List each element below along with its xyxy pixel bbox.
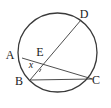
angle-label-x: x [28, 59, 34, 70]
geometry-canvas: A B C D E x [0, 0, 111, 108]
main-circle [18, 13, 97, 92]
vertex-label-d: D [80, 7, 89, 21]
vertex-label-e: E [36, 45, 43, 59]
chord-bc [30, 79, 93, 80]
vertex-label-b: B [15, 74, 23, 88]
vertex-label-a: A [6, 48, 15, 62]
vertex-label-c: C [92, 73, 100, 87]
geometry-figure: A B C D E x [0, 0, 111, 108]
